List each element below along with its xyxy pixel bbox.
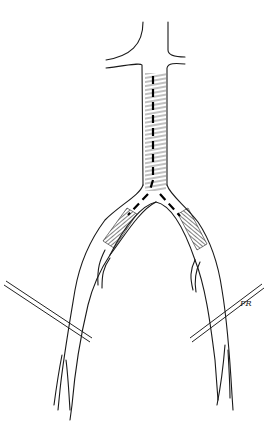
- aortic-bifurcation-illustration: FR: [0, 0, 279, 424]
- aorta: [106, 22, 185, 191]
- right-iliac-outer-wall: [167, 185, 233, 410]
- left-renal-lower-wall: [106, 64, 143, 185]
- right-iliac-inner-wall: [195, 260, 218, 400]
- aorta-hatched: [145, 73, 166, 191]
- left-renal-upper-wall: [106, 22, 143, 60]
- left-clamp: [4, 281, 92, 342]
- right-internal-iliac-branch: [191, 260, 200, 292]
- right-leg-branch: [217, 345, 230, 405]
- right-renal-lower-wall: [167, 63, 185, 185]
- left-leg-branch: [54, 355, 70, 410]
- left-internal-iliac-branch: [98, 250, 110, 288]
- right-renal-upper-wall: [168, 22, 185, 57]
- artist-signature: FR: [239, 299, 252, 308]
- iliac-arteries: [54, 185, 233, 420]
